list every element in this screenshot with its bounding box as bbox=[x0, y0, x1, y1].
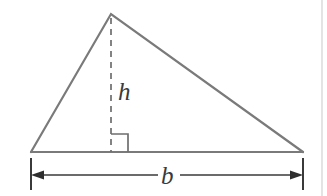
height-label: h bbox=[118, 78, 131, 105]
triangle-diagram-canvas: h b bbox=[0, 0, 327, 196]
triangle-figure: h b bbox=[0, 0, 327, 196]
base-label: b bbox=[161, 162, 174, 189]
